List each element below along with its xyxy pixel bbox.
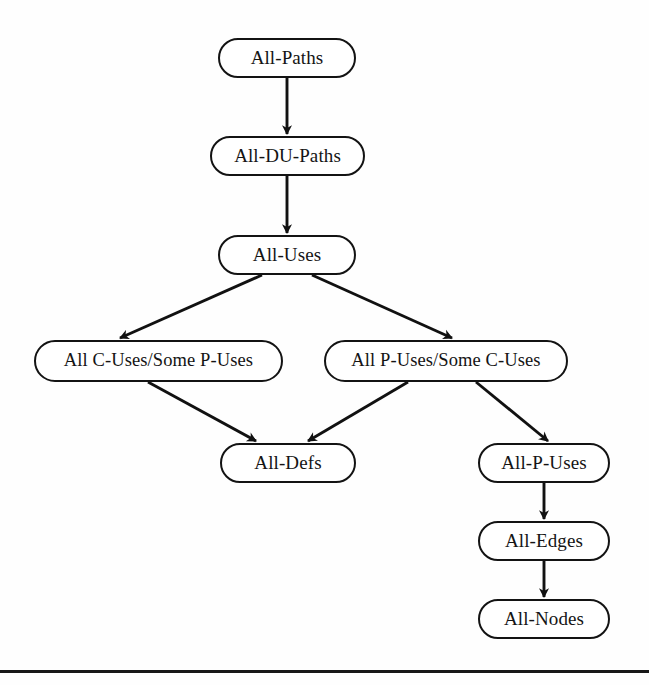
node-label: All-DU-Paths (234, 146, 341, 166)
node-all-nodes[interactable]: All-Nodes (478, 599, 610, 639)
node-all-edges[interactable]: All-Edges (478, 521, 610, 561)
edge-all-p-uses-some-c-uses-to-all-p-uses (476, 382, 548, 441)
diagram-canvas: All-Paths All-DU-Paths All-Uses All C-Us… (0, 0, 649, 685)
node-all-uses[interactable]: All-Uses (218, 235, 356, 275)
edge-all-p-uses-some-c-uses-to-all-defs (308, 382, 408, 441)
page-footer-rule (0, 670, 649, 673)
edge-all-uses-to-all-c-uses-some-p-uses (120, 275, 262, 338)
node-all-c-uses-some-p-uses[interactable]: All C-Uses/Some P-Uses (34, 340, 283, 382)
node-label: All-P-Uses (501, 453, 586, 473)
node-label: All C-Uses/Some P-Uses (64, 351, 253, 371)
node-all-p-uses-some-c-uses[interactable]: All P-Uses/Some C-Uses (324, 340, 568, 382)
node-all-p-uses[interactable]: All-P-Uses (478, 443, 610, 483)
node-all-defs[interactable]: All-Defs (220, 443, 356, 483)
node-label: All P-Uses/Some C-Uses (351, 351, 540, 371)
node-label: All-Paths (251, 48, 324, 68)
node-label: All-Defs (254, 453, 321, 473)
node-label: All-Uses (253, 245, 321, 265)
node-all-paths[interactable]: All-Paths (218, 38, 356, 78)
edge-all-uses-to-all-p-uses-some-c-uses (312, 275, 452, 338)
node-all-du-paths[interactable]: All-DU-Paths (210, 136, 365, 176)
node-label: All-Nodes (504, 609, 584, 629)
edge-all-c-uses-some-p-uses-to-all-defs (148, 382, 256, 441)
node-label: All-Edges (505, 531, 583, 551)
